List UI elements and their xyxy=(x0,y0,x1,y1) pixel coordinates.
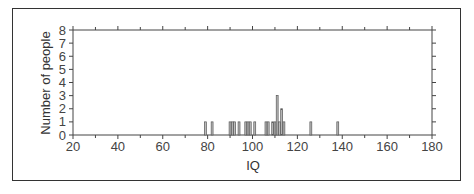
histogram-bar xyxy=(276,96,278,135)
y-tick-label: 3 xyxy=(59,88,66,103)
x-tick-label: 140 xyxy=(331,139,353,154)
histogram-bar xyxy=(281,109,283,135)
x-tick-label: 100 xyxy=(242,139,264,154)
y-tick-label: 6 xyxy=(59,49,66,64)
histogram-bar xyxy=(238,122,240,135)
x-tick-label: 20 xyxy=(66,139,80,154)
histogram-bar xyxy=(283,122,285,135)
histogram-bar xyxy=(254,122,256,135)
histogram-bar xyxy=(278,122,280,135)
x-tick-label: 60 xyxy=(156,139,170,154)
histogram-bar xyxy=(231,122,233,135)
x-axis-title: IQ xyxy=(246,158,260,173)
histogram-bar xyxy=(265,122,267,135)
histogram-bar xyxy=(234,122,236,135)
y-tick-label: 8 xyxy=(59,23,66,38)
y-tick-label: 0 xyxy=(59,128,66,143)
histogram-bar xyxy=(247,122,249,135)
x-tick-label: 180 xyxy=(421,139,443,154)
histogram-bar xyxy=(211,122,213,135)
x-tick-label: 120 xyxy=(287,139,309,154)
histogram-bar xyxy=(310,122,312,135)
histogram-bar xyxy=(249,122,251,135)
x-tick-label: 40 xyxy=(111,139,125,154)
histogram-bar xyxy=(229,122,231,135)
histogram-bar xyxy=(204,122,206,135)
plot-area: 20406080100120140160180012345678 xyxy=(59,23,443,155)
histogram-bar xyxy=(267,122,269,135)
histogram-chart: 20406080100120140160180012345678 IQ Numb… xyxy=(0,0,474,194)
y-tick-label: 2 xyxy=(59,101,66,116)
y-tick-label: 4 xyxy=(59,75,66,90)
histogram-bar xyxy=(274,122,276,135)
y-tick-label: 7 xyxy=(59,36,66,51)
x-tick-label: 80 xyxy=(200,139,214,154)
y-axis-title: Number of people xyxy=(38,31,53,134)
x-tick-label: 160 xyxy=(376,139,398,154)
histogram-bar xyxy=(245,122,247,135)
y-tick-label: 1 xyxy=(59,114,66,129)
y-tick-label: 5 xyxy=(59,62,66,77)
histogram-bar xyxy=(272,122,274,135)
histogram-bar xyxy=(337,122,339,135)
